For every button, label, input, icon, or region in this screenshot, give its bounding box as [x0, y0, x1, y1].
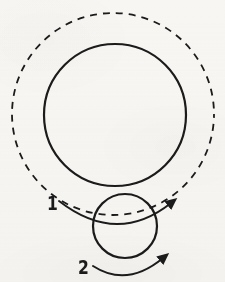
- arrow-2-label: 2: [78, 258, 88, 277]
- diagram-canvas: [0, 0, 225, 282]
- diagram-figure: 1 2: [0, 0, 225, 282]
- arrow-2-path: [93, 258, 163, 275]
- arrow-1-label: 1: [47, 194, 57, 213]
- large-solid-circle: [44, 44, 186, 186]
- small-solid-circle: [93, 194, 157, 258]
